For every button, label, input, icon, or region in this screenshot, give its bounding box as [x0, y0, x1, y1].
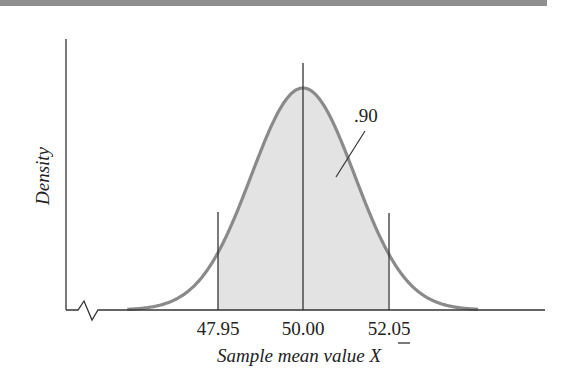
x-tick-47-95: 47.95 — [197, 318, 240, 339]
x-axis-label-text: Sample mean value — [217, 345, 369, 366]
x-axis-label: Sample mean value X — [217, 343, 410, 366]
x-bar-symbol: X — [368, 345, 382, 366]
x-tick-52-05: 52.05 — [368, 318, 411, 339]
shaded-area-label: .90 — [354, 105, 378, 126]
x-tick-50-00: 50.00 — [282, 318, 325, 339]
svg-text:Sample mean value X: Sample mean value X — [217, 345, 382, 366]
sampling-distribution-chart: .90 Density 47.95 50.00 52.05 Sample mea… — [0, 0, 572, 386]
y-axis-label: Density — [32, 146, 53, 206]
